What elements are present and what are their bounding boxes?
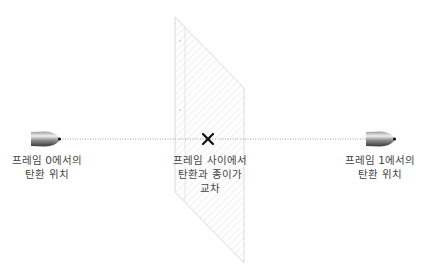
label-line: 프레임 1에서의	[345, 153, 415, 167]
label-line: 프레임 0에서의	[12, 153, 82, 167]
bullet-icon	[366, 132, 396, 147]
label-line: 프레임 사이에서	[173, 153, 246, 167]
label-frame-1: 프레임 1에서의 탄환 위치	[345, 153, 415, 181]
label-line: 탄환 위치	[12, 167, 82, 181]
label-line: 교차	[173, 181, 246, 195]
bullet-icon	[31, 132, 61, 147]
label-frame-0: 프레임 0에서의 탄환 위치	[12, 153, 82, 181]
paper-hole-top	[179, 40, 181, 42]
paper-hole-bottom	[179, 109, 181, 111]
label-intersection: 프레임 사이에서 탄환과 종이가 교차	[173, 153, 246, 195]
label-line: 탄환과 종이가	[173, 167, 246, 181]
bullet-paper-diagram	[0, 0, 426, 277]
label-line: 탄환 위치	[345, 167, 415, 181]
